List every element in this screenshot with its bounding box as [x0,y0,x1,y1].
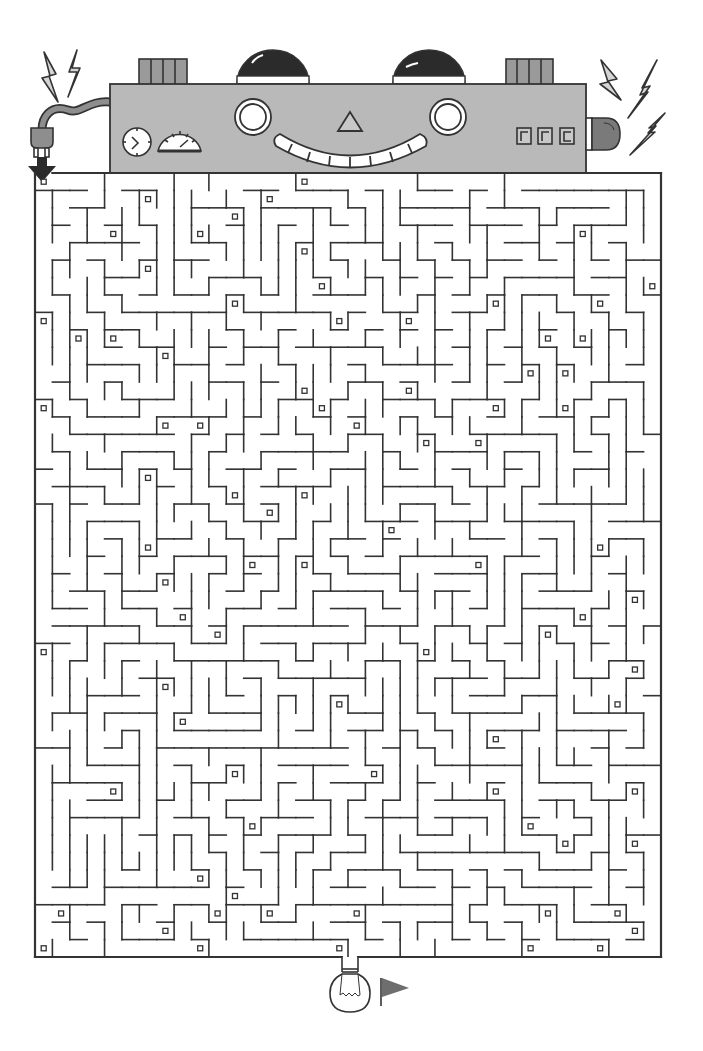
circuit-node-icon [198,946,203,951]
circuit-node-icon [493,406,498,411]
circuit-node-icon [563,406,568,411]
robot-vent-right [506,59,553,85]
power-cable [42,102,110,130]
clock-gauge-icon [123,128,151,156]
circuit-node-icon [632,841,637,846]
maze-puzzle-canvas [0,0,703,1051]
robot-eye-right [430,99,466,135]
circuit-node-icon [319,406,324,411]
circuit-node-icon [41,319,46,324]
circuit-node-icon [76,336,81,341]
circuit-node-icon [424,441,429,446]
circuit-node-icon [650,284,655,289]
circuit-node-icon [319,284,324,289]
circuit-node-icon [198,231,203,236]
circuit-node-icon [580,336,585,341]
circuit-node-icon [41,946,46,951]
circuit-node-icon [615,702,620,707]
circuit-node-icon [632,667,637,672]
circuit-node-icon [476,441,481,446]
finish-flag-icon [381,978,409,1006]
circuit-node-icon [580,615,585,620]
circuit-node-icon [632,789,637,794]
circuit-node-icon [250,563,255,568]
circuit-node-icon [337,319,342,324]
circuit-node-icon [302,493,307,498]
circuit-node-icon [545,632,550,637]
circuit-node-icon [111,231,116,236]
circuit-node-icon [563,841,568,846]
circuit-node-icon [232,772,237,777]
circuit-node-icon [632,597,637,602]
circuit-node-icon [198,423,203,428]
circuit-node-icon [598,545,603,550]
circuit-node-icon [302,563,307,568]
circuit-node-icon [545,336,550,341]
robot-eye-left [235,99,271,135]
circuit-node-icon [41,650,46,655]
plug-icon [31,128,53,157]
circuit-node-icon [476,563,481,568]
circuit-node-icon [424,650,429,655]
circuit-node-icon [354,911,359,916]
circuit-node-icon [215,911,220,916]
circuit-node-icon [545,911,550,916]
circuit-node-icon [598,946,603,951]
robot-display [517,128,574,144]
circuit-node-icon [389,528,394,533]
circuit-node-icon [163,928,168,933]
circuit-node-icon [302,249,307,254]
circuit-node-icon [267,197,272,202]
circuit-node-icon [250,824,255,829]
light-bulb-goal-icon[interactable] [330,957,370,1012]
circuit-node-icon [337,702,342,707]
circuit-node-icon [632,928,637,933]
circuit-node-icon [146,266,151,271]
robot-vent-left [139,59,187,85]
circuit-node-icon [163,580,168,585]
circuit-node-icon [232,894,237,899]
circuit-node-icon [372,772,377,777]
circuit-node-icon [232,493,237,498]
circuit-node-icon [406,388,411,393]
circuit-node-icon [406,319,411,324]
circuit-node-icon [528,371,533,376]
robot-dome-right [393,50,465,84]
circuit-node-icon [163,423,168,428]
circuit-node-icon [163,353,168,358]
circuit-node-icon [267,510,272,515]
circuit-node-icon [302,388,307,393]
circuit-node-icon [528,824,533,829]
circuit-node-icon [111,789,116,794]
circuit-node-icon [146,197,151,202]
circuit-node-icon [302,179,307,184]
circuit-node-icon [111,336,116,341]
circuit-node-icon [232,214,237,219]
circuit-node-icon [267,911,272,916]
circuit-node-icon [354,423,359,428]
robot-dome-left [237,50,309,84]
circuit-node-icon [528,946,533,951]
circuit-node-icon [146,475,151,480]
circuit-node-icon [146,545,151,550]
lightning-bolt-icon [42,50,80,102]
circuit-node-icon [232,301,237,306]
maze-grid[interactable] [35,173,661,957]
circuit-node-icon [59,911,64,916]
circuit-node-icon [41,179,46,184]
circuit-node-icon [493,737,498,742]
circuit-node-icon [198,876,203,881]
robot-side-light [586,118,620,150]
circuit-node-icon [163,684,168,689]
circuit-node-icon [215,632,220,637]
start-arrow-icon[interactable] [28,157,56,182]
circuit-node-icon [580,231,585,236]
circuit-node-icon [180,719,185,724]
circuit-node-icon [598,301,603,306]
circuit-node-icon [41,406,46,411]
circuit-node-icon [615,911,620,916]
circuit-node-icon [337,946,342,951]
circuit-node-icon [493,301,498,306]
circuit-node-icon [493,789,498,794]
circuit-node-icon [180,615,185,620]
